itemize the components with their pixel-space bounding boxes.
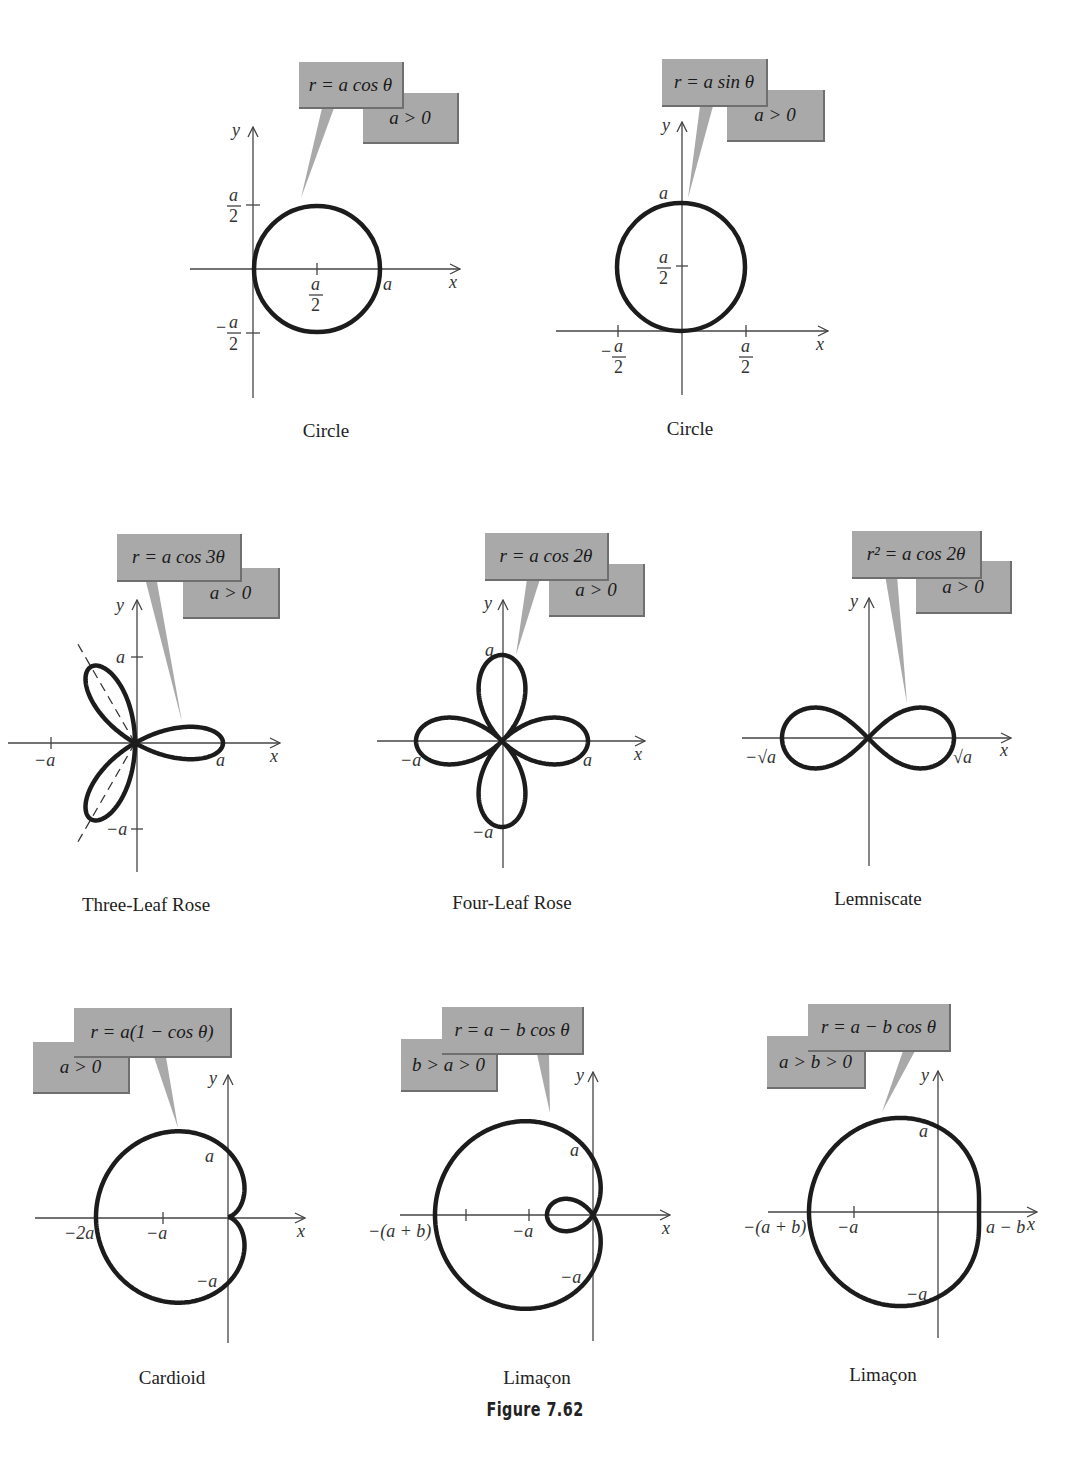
tick-label-a: a [383, 274, 392, 294]
tick-label-neg-a-x: −a [837, 1217, 858, 1237]
callout-pointer [516, 579, 540, 655]
tick-label-neg-a: −a [560, 1267, 581, 1287]
svg-text:2: 2 [311, 295, 320, 315]
equation-callout: r = a cos θ [299, 62, 404, 109]
tick-label-y-neg-a-over-2: −a2 [216, 312, 241, 354]
tick-label-neg-a: −a [106, 819, 127, 839]
panel-four-leaf-rose: x y a −a −a a [377, 579, 645, 868]
tick-label-neg-a-x: −a [400, 750, 421, 770]
tick-label-neg-a-x: −a [146, 1223, 167, 1243]
tick-label-neg-sqrt-a: −√a [745, 747, 776, 767]
tick-label-a: a [659, 183, 668, 203]
panel-caption: Four-Leaf Rose [452, 892, 571, 914]
x-axis-label: x [999, 740, 1008, 760]
tick-label-a: a [919, 1121, 928, 1141]
equation-callout: r = a cos 3θ [117, 534, 242, 582]
tick-label-neg-a: −a [472, 822, 493, 842]
panel-caption: Circle [303, 420, 349, 442]
svg-text:2: 2 [659, 268, 668, 288]
svg-text:a: a [741, 336, 750, 356]
callout-pointer [885, 575, 907, 704]
svg-text:a: a [229, 312, 238, 332]
svg-text:2: 2 [229, 206, 238, 226]
tick-label-neg-2a: −2a [64, 1223, 94, 1243]
svg-text:2: 2 [614, 357, 623, 377]
tick-label-neg-a-plus-b: −(a + b) [368, 1221, 431, 1242]
svg-text:a: a [659, 247, 668, 267]
svg-text:−: − [216, 317, 226, 337]
x-axis-label: x [296, 1221, 305, 1241]
panel-limacon-loop: x y a −a −(a + b) −a [368, 1054, 670, 1341]
svg-text:2: 2 [741, 357, 750, 377]
y-axis-label: y [207, 1068, 217, 1088]
equation-callout: r = a − b cos θ [442, 1007, 584, 1055]
polar-curve [617, 203, 745, 331]
equation-callout: r² = a cos 2θ [852, 531, 982, 579]
tick-label-x-neg-a-over-2: −a2 [601, 336, 626, 377]
x-axis-label: x [633, 744, 642, 764]
y-axis-label: y [848, 591, 858, 611]
svg-text:2: 2 [229, 334, 238, 354]
equation-callout: r = a(1 − cos θ) [74, 1008, 232, 1058]
y-axis-label: y [574, 1065, 584, 1085]
y-axis-label: y [114, 595, 124, 615]
tick-label-a-x: a [583, 750, 592, 770]
tick-label-y-a-over-2: a2 [657, 247, 671, 288]
tick-label-neg-a-x: −a [34, 750, 55, 770]
tick-label-neg-a-plus-b: −(a + b) [743, 1217, 806, 1238]
polar-curve [96, 1131, 245, 1302]
figure-canvas: x y a a2 −a2 a2 x y a a2 −a2 a2 [0, 0, 1084, 1464]
panel-caption: Limaçon [503, 1367, 571, 1389]
tick-label-a-minus-b: a − b [986, 1217, 1025, 1237]
equation-callout: r = a − b cos θ [808, 1004, 951, 1052]
tick-label-a: a [485, 640, 494, 660]
tick-label-y-a-over-2: a2 [227, 185, 241, 226]
panel-cardioid: x y a −a −2a −a [35, 1057, 305, 1343]
x-axis-label: x [448, 272, 457, 292]
callout-pointer [146, 582, 182, 722]
tick-label-x-a-over-2: a2 [739, 336, 753, 377]
y-axis-label: y [660, 115, 670, 135]
panel-circle-cos: x y a a2 −a2 a2 [190, 108, 460, 398]
x-axis-label: x [1026, 1214, 1035, 1234]
x-axis-label: x [815, 334, 824, 354]
panel-lemniscate: x y −√a √a [742, 575, 1011, 866]
callout-pointer [154, 1057, 178, 1128]
tick-label-neg-a: −a [196, 1271, 217, 1291]
callout-pointer [537, 1054, 550, 1113]
tick-label-neg-a-x: −a [512, 1221, 533, 1241]
svg-text:−: − [601, 341, 611, 361]
panel-three-leaf-rose: x y a −a −a a [8, 582, 280, 872]
equation-callout: r = a cos 2θ [485, 533, 609, 581]
panel-caption: Three-Leaf Rose [82, 894, 210, 916]
y-axis-label: y [230, 120, 240, 140]
panel-caption: Lemniscate [834, 888, 922, 910]
y-axis-label: y [919, 1065, 929, 1085]
figure-caption: Figure 7.62 [486, 1397, 583, 1421]
callout-pointer [301, 108, 334, 198]
panel-caption: Limaçon [849, 1364, 917, 1386]
x-axis-label: x [661, 1218, 670, 1238]
equation-callout: r = a sin θ [662, 59, 768, 107]
tick-label-a: a [570, 1140, 579, 1160]
svg-text:a: a [311, 274, 320, 294]
tick-label-a: a [205, 1146, 214, 1166]
panel-limacon-dimpled: x y a −a −(a + b) −a a − b [743, 1051, 1037, 1338]
panel-circle-sin: x y a a2 −a2 a2 [556, 106, 828, 395]
panel-caption: Cardioid [139, 1367, 206, 1389]
x-axis-label: x [269, 746, 278, 766]
tick-label-sqrt-a: √a [953, 747, 972, 767]
y-axis-label: y [482, 593, 492, 613]
tick-label-x-a-over-2: a2 [309, 274, 323, 315]
panel-caption: Circle [667, 418, 713, 440]
tick-label-a: a [116, 647, 125, 667]
callout-pointer [688, 106, 713, 198]
callout-pointer [882, 1051, 915, 1112]
svg-text:a: a [614, 336, 623, 356]
svg-text:a: a [229, 185, 238, 205]
tick-label-a-x: a [216, 750, 225, 770]
tick-label-neg-a: −a [906, 1284, 927, 1304]
